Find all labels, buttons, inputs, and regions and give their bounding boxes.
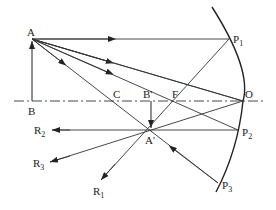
label-p1: P1 <box>233 33 243 48</box>
label-a: A <box>27 26 35 38</box>
label-p2: P2 <box>242 126 252 141</box>
ray-a-p2-arrow <box>32 39 110 73</box>
ray-p1-r1 <box>101 39 229 180</box>
ray-p3-back-arrow <box>172 148 218 183</box>
ray-r1-arrow <box>101 164 115 180</box>
label-o: O <box>245 88 253 100</box>
concave-mirror <box>212 7 245 192</box>
label-r2: R2 <box>34 124 45 139</box>
label-f: F <box>172 88 178 100</box>
label-a-prime: A' <box>145 134 155 146</box>
concave-mirror-diagram: A B C B' F O A' P1 P2 P3 R1 R2 R3 <box>0 0 276 210</box>
label-b: B <box>28 105 35 117</box>
label-p3: P3 <box>222 179 232 194</box>
ray-r3-arrow <box>50 156 70 162</box>
ray-a-upper <box>32 39 243 101</box>
label-r3: R3 <box>33 157 44 172</box>
label-b-prime: B' <box>143 88 152 100</box>
ray-o-r3 <box>50 101 243 162</box>
label-r1: R1 <box>93 185 104 200</box>
label-c: C <box>113 88 120 100</box>
